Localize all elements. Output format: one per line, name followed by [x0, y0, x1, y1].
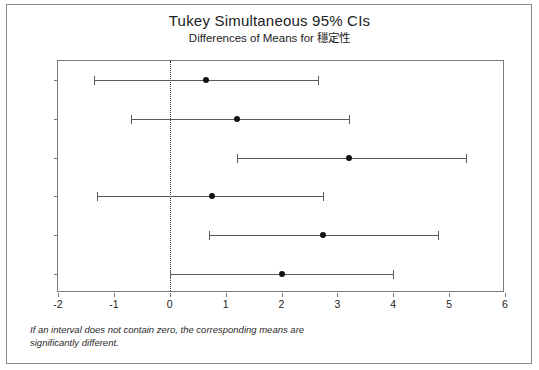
interval-center-marker — [234, 116, 240, 122]
y-axis-tick — [54, 235, 58, 236]
x-axis-label: 6 — [490, 298, 520, 310]
footnote-line-1: If an interval does not contain zero, th… — [30, 324, 360, 337]
x-axis-tick — [337, 293, 338, 297]
x-axis-label: 0 — [155, 298, 185, 310]
interval-lower-cap — [170, 270, 171, 279]
title-block: Tukey Simultaneous 95% CIs Differences o… — [0, 12, 539, 46]
interval-upper-cap — [438, 231, 439, 240]
x-axis-tick — [226, 293, 227, 297]
plot-area — [58, 61, 503, 291]
x-axis-label: 3 — [322, 298, 352, 310]
interval-lower-cap — [94, 76, 95, 85]
plot-panel: -2-101234562 - 13 - 14 - 13 - 24 - 24 - … — [57, 60, 504, 292]
chart-subtitle: Differences of Means for 穩定性 — [0, 31, 539, 46]
x-axis-label: -2 — [43, 298, 73, 310]
chart-footnote: If an interval does not contain zero, th… — [30, 324, 360, 349]
interval-center-marker — [320, 232, 326, 238]
zero-reference-line — [170, 61, 171, 291]
x-axis-tick — [282, 293, 283, 297]
x-axis-label: 1 — [211, 298, 241, 310]
y-axis-tick — [54, 196, 58, 197]
x-axis-tick — [58, 293, 59, 297]
x-axis-tick — [393, 293, 394, 297]
y-axis-tick — [54, 274, 58, 275]
interval-center-marker — [346, 155, 352, 161]
x-axis-label: -1 — [99, 298, 129, 310]
interval-lower-cap — [209, 231, 210, 240]
tukey-ci-chart: Tukey Simultaneous 95% CIs Differences o… — [0, 0, 539, 370]
interval-center-marker — [209, 193, 215, 199]
interval-upper-cap — [318, 76, 319, 85]
interval-upper-cap — [393, 270, 394, 279]
x-axis-label: 5 — [434, 298, 464, 310]
interval-upper-cap — [323, 192, 324, 201]
chart-title: Tukey Simultaneous 95% CIs — [0, 12, 539, 30]
x-axis-tick — [114, 293, 115, 297]
interval-upper-cap — [349, 115, 350, 124]
x-axis-label: 2 — [267, 298, 297, 310]
interval-lower-cap — [97, 192, 98, 201]
x-axis-label: 4 — [378, 298, 408, 310]
x-axis-tick — [449, 293, 450, 297]
x-axis-tick — [505, 293, 506, 297]
interval-lower-cap — [131, 115, 132, 124]
interval-center-marker — [279, 271, 285, 277]
x-axis-tick — [170, 293, 171, 297]
footnote-line-2: significantly different. — [30, 337, 360, 350]
interval-center-marker — [203, 77, 209, 83]
y-axis-tick — [54, 119, 58, 120]
y-axis-tick — [54, 158, 58, 159]
interval-upper-cap — [466, 154, 467, 163]
y-axis-tick — [54, 80, 58, 81]
interval-lower-cap — [237, 154, 238, 163]
